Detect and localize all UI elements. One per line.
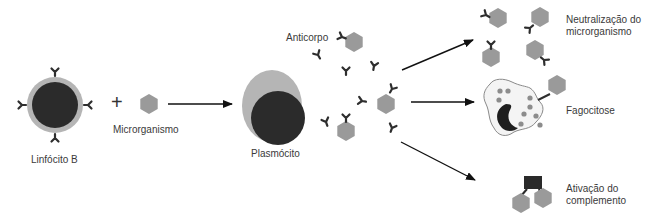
plus-sign: + — [111, 92, 123, 112]
arrow-to-neutralization — [402, 40, 473, 70]
neutralization-label-line2: microrganismo — [566, 26, 632, 38]
neutralized-microbes — [481, 7, 549, 67]
b-lymphocyte — [19, 69, 92, 142]
phagocytosis-label: Fagocitose — [566, 105, 615, 117]
complement-label-line2: complemento — [566, 195, 626, 207]
antibody-icon — [19, 102, 27, 109]
immune-response-diagram: Linfócito B + Microrganismo Plasmócito A… — [0, 0, 656, 222]
antibody-label: Anticorpo — [286, 32, 328, 44]
antibody-icon — [52, 69, 59, 77]
antibody-cluster — [313, 32, 397, 141]
b-lymphocyte-label: Linfócito B — [31, 154, 78, 166]
microorganism-label: Microrganismo — [113, 124, 179, 136]
complement-label-line1: Ativação do — [566, 183, 618, 195]
plasma-cell-label: Plasmócito — [251, 148, 300, 160]
neutralization-label-line1: Neutralização do — [566, 14, 641, 26]
arrow-to-complement — [401, 142, 475, 180]
antibody-icon — [52, 134, 59, 142]
microorganism-icon — [140, 94, 157, 114]
antibody-icon — [84, 102, 92, 109]
complement-complex — [512, 176, 551, 213]
phagocyte — [484, 75, 566, 135]
plasma-cell — [242, 70, 305, 145]
